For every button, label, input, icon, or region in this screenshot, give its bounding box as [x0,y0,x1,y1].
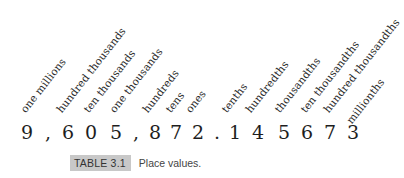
number-digit: 6 [301,123,313,142]
number-digit: 5 [110,123,122,142]
place-label: ones [184,88,208,114]
place-value-figure: one millionshundred thousandsten thousan… [0,0,404,178]
number-digit: 0 [85,123,97,142]
number-digit: 5 [278,123,290,142]
number-digit: 6 [62,123,74,142]
number-digit: 3 [347,123,359,142]
number-digit: 4 [252,123,264,142]
number-digit: 9 [21,123,33,142]
number-digit: 2 [192,123,204,142]
number-digit: 7 [170,123,182,142]
caption-text: Place values. [139,157,201,169]
table-number-tag: TABLE 3.1 [70,155,131,171]
number-digit: 8 [149,123,161,142]
table-caption: TABLE 3.1 Place values. [70,155,201,171]
place-label: tens [164,90,186,115]
number-digit: 1 [229,123,241,142]
number-digit: 7 [324,123,336,142]
number-separator: , [45,123,51,142]
number-separator: , [133,123,139,142]
number-separator: . [214,123,220,142]
